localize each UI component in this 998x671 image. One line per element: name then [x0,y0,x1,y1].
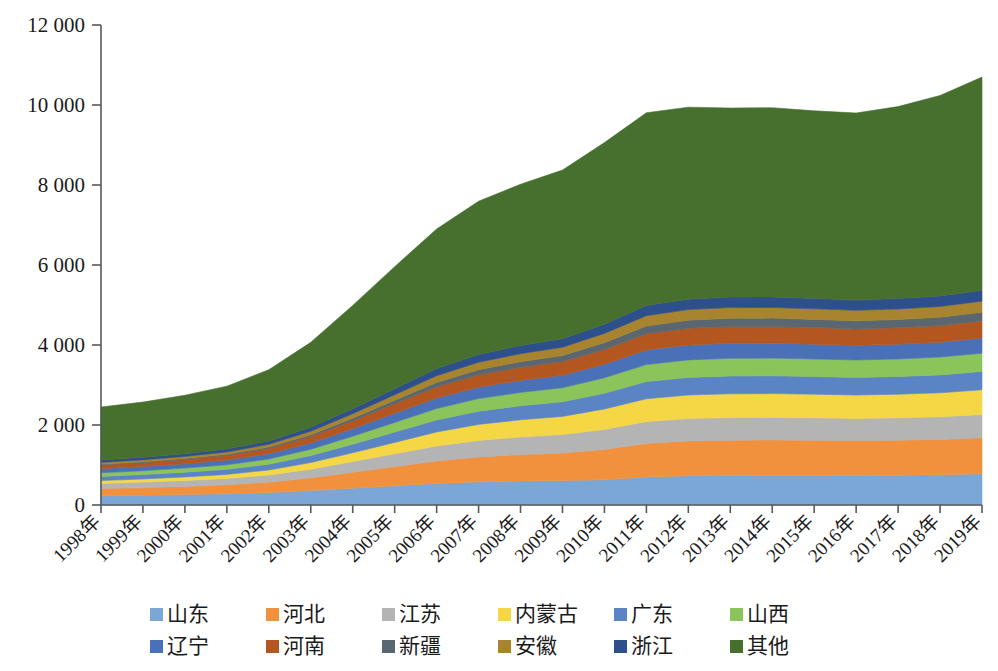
x-tick-label-4: 2002年 [216,511,271,566]
legend-item-label: 河南 [283,636,325,657]
chart-legend: 山东河北江苏内蒙古广东山西辽宁河南新疆安徽浙江其他 [150,598,850,668]
chart-canvas: 02 0004 0006 0008 00010 00012 000 1998年1… [0,0,998,671]
x-tick-label-20: 2018年 [888,511,943,566]
x-tick-label-6: 2004年 [300,511,355,566]
x-tick-label-8: 2006年 [384,511,439,566]
legend-swatch-icon [266,608,279,621]
y-tick-label-4: 8 000 [38,173,85,197]
x-tick-label-7: 2005年 [342,511,397,566]
x-tick-label-14: 2012年 [636,511,691,566]
legend-item-label: 辽宁 [167,636,209,657]
legend-item-新疆[interactable]: 新疆 [382,630,498,662]
legend-swatch-icon [150,608,163,621]
x-tick-label-1: 1999年 [91,511,146,566]
x-tick-label-17: 2015年 [762,511,817,566]
x-tick-label-9: 2007年 [426,511,481,566]
y-tick-label-6: 12 000 [27,13,85,37]
legend-item-label: 江苏 [399,604,441,625]
legend-item-label: 安徽 [515,636,557,657]
legend-item-label: 河北 [283,604,325,625]
legend-row-0: 山东河北江苏内蒙古广东山西 [150,598,850,630]
y-tick-label-1: 2 000 [38,413,85,437]
legend-item-内蒙古[interactable]: 内蒙古 [498,598,614,630]
legend-item-江苏[interactable]: 江苏 [382,598,498,630]
legend-item-广东[interactable]: 广东 [614,598,730,630]
legend-item-label: 其他 [747,636,789,657]
legend-swatch-icon [614,640,627,653]
legend-item-山东[interactable]: 山东 [150,598,266,630]
legend-swatch-icon [498,608,511,621]
x-tick-label-19: 2017年 [846,511,901,566]
legend-item-浙江[interactable]: 浙江 [614,630,730,662]
legend-item-山西[interactable]: 山西 [730,598,846,630]
x-tick-label-2: 2000年 [133,511,188,566]
legend-item-label: 广东 [631,604,673,625]
y-tick-label-5: 10 000 [27,93,85,117]
y-axis-tick-labels: 02 0004 0006 0008 00010 00012 000 [27,13,85,517]
legend-item-label: 山东 [167,604,209,625]
x-tick-label-16: 2014年 [720,511,775,566]
x-tick-label-10: 2008年 [468,511,523,566]
legend-item-其他[interactable]: 其他 [730,630,846,662]
legend-swatch-icon [382,640,395,653]
x-tick-label-15: 2013年 [678,511,733,566]
x-tick-label-3: 2001年 [175,511,230,566]
y-tick-label-3: 6 000 [38,253,85,277]
x-axis-tick-labels: 1998年1999年2000年2001年2002年2003年2004年2005年… [49,511,985,566]
y-tick-label-2: 4 000 [38,333,85,357]
legend-item-label: 山西 [747,604,789,625]
legend-swatch-icon [382,608,395,621]
legend-swatch-icon [150,640,163,653]
x-tick-label-11: 2009年 [510,511,565,566]
x-tick-label-12: 2010年 [552,511,607,566]
legend-item-label: 浙江 [631,636,673,657]
legend-item-安徽[interactable]: 安徽 [498,630,614,662]
legend-item-辽宁[interactable]: 辽宁 [150,630,266,662]
x-tick-label-21: 2019年 [930,511,985,566]
stacked-area-chart: 02 0004 0006 0008 00010 00012 000 1998年1… [0,0,998,671]
area-series-group [101,77,982,505]
legend-item-label: 新疆 [399,636,441,657]
x-tick-label-0: 1998年 [49,511,104,566]
legend-swatch-icon [730,608,743,621]
y-tick-label-0: 0 [75,493,86,517]
legend-swatch-icon [266,640,279,653]
legend-item-河北[interactable]: 河北 [266,598,382,630]
legend-swatch-icon [498,640,511,653]
legend-swatch-icon [614,608,627,621]
legend-item-河南[interactable]: 河南 [266,630,382,662]
x-tick-label-5: 2003年 [258,511,313,566]
legend-item-label: 内蒙古 [515,604,578,625]
legend-swatch-icon [730,640,743,653]
x-tick-label-18: 2016年 [804,511,859,566]
legend-row-1: 辽宁河南新疆安徽浙江其他 [150,630,850,662]
